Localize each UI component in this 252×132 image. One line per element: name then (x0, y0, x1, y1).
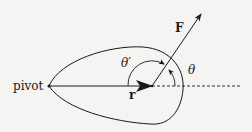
torque-diagram: pivot F r θ θ′ (0, 0, 252, 132)
theta-prime-arc (128, 61, 164, 86)
theta-prime-label: θ′ (121, 56, 131, 70)
rigid-body-outline (49, 47, 183, 124)
theta-label: θ (188, 63, 196, 77)
theta-arc (169, 70, 175, 86)
pivot-point (48, 85, 51, 88)
force-label: F (175, 21, 184, 35)
radius-label: r (129, 88, 136, 102)
pivot-label: pivot (13, 79, 44, 93)
